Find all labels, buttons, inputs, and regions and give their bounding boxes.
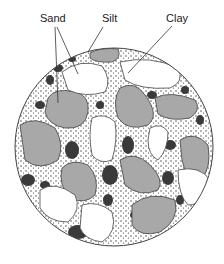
soil-sample bbox=[0, 40, 224, 260]
soil-diagram bbox=[0, 0, 224, 264]
label-silt: Silt bbox=[102, 13, 117, 24]
label-sand: Sand bbox=[40, 13, 66, 24]
label-clay: Clay bbox=[166, 13, 188, 24]
